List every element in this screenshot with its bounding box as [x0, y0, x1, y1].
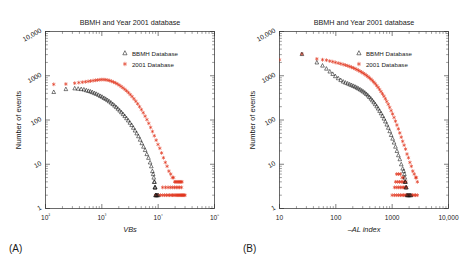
- marker-asterisk: [394, 180, 397, 184]
- x-tick-label: 10⁵: [210, 213, 219, 221]
- marker-asterisk: [408, 161, 411, 165]
- marker-triangle: [394, 145, 398, 149]
- marker-asterisk: [162, 156, 165, 160]
- marker-asterisk: [396, 180, 399, 184]
- marker-asterisk: [321, 58, 324, 62]
- marker-triangle: [392, 141, 396, 145]
- marker-asterisk: [134, 99, 137, 103]
- marker-asterisk: [397, 127, 400, 131]
- marker-asterisk: [171, 185, 174, 189]
- marker-asterisk: [180, 185, 183, 189]
- marker-asterisk: [136, 102, 139, 106]
- x-tick-label: 10⁴: [154, 213, 163, 221]
- legend-label: BBMH Database: [132, 50, 179, 57]
- marker-triangle: [397, 153, 401, 157]
- marker-triangle: [52, 90, 56, 94]
- marker-asterisk: [156, 143, 159, 147]
- marker-triangle: [328, 69, 332, 73]
- marker-triangle: [64, 87, 68, 91]
- marker-asterisk: [394, 119, 397, 123]
- data-layer: [278, 52, 419, 197]
- marker-triangle: [325, 67, 329, 71]
- y-axis-label: Number of events: [14, 91, 23, 150]
- marker-asterisk: [149, 126, 152, 130]
- marker-asterisk: [328, 59, 331, 63]
- marker-asterisk: [416, 180, 419, 184]
- panel-letter: (B): [243, 243, 256, 254]
- marker-asterisk: [164, 185, 167, 189]
- marker-triangle: [148, 160, 152, 164]
- marker-asterisk: [77, 81, 80, 85]
- marker-asterisk: [391, 193, 394, 197]
- marker-asterisk: [325, 58, 328, 62]
- y-tick-label: 100: [263, 115, 276, 127]
- y-tick-label: 10: [33, 159, 43, 169]
- marker-asterisk: [158, 146, 161, 150]
- marker-asterisk: [160, 151, 163, 155]
- marker-asterisk: [407, 156, 410, 160]
- marker-asterisk: [393, 185, 396, 189]
- marker-asterisk: [140, 108, 143, 112]
- marker-triangle: [147, 156, 151, 160]
- y-tick-label: 1000: [26, 71, 43, 84]
- marker-asterisk: [395, 185, 398, 189]
- marker-asterisk: [410, 164, 413, 168]
- marker-triangle: [388, 129, 392, 133]
- series-bbmh: [52, 86, 160, 196]
- marker-asterisk: [155, 138, 158, 142]
- marker-asterisk: [165, 164, 168, 168]
- y-tick-label: 10,000: [255, 27, 276, 43]
- marker-asterisk: [151, 130, 154, 134]
- marker-triangle: [140, 141, 144, 145]
- panel-b: BBMH and Year 2001 database110100100010,…: [248, 18, 459, 234]
- marker-asterisk: [395, 172, 398, 176]
- legend: BBMH Database2001 Database: [123, 50, 179, 68]
- x-axis-label: VBs: [123, 225, 137, 234]
- panel-title: BBMH and Year 2001 database: [314, 18, 415, 27]
- marker-asterisk: [398, 131, 401, 135]
- x-tick-label: 10: [276, 214, 284, 221]
- x-tick-label: 100: [330, 214, 341, 221]
- marker-triangle: [321, 64, 325, 68]
- marker-asterisk: [395, 123, 398, 127]
- marker-asterisk: [402, 143, 405, 147]
- marker-asterisk: [278, 58, 281, 62]
- marker-asterisk: [397, 172, 400, 176]
- series-2001: [52, 78, 187, 197]
- marker-asterisk: [416, 193, 419, 197]
- plot-frame: [46, 32, 215, 209]
- marker-asterisk: [132, 97, 135, 101]
- x-tick-label: 10³: [97, 213, 106, 221]
- series-2001: [278, 52, 419, 197]
- panel-letter: (A): [9, 243, 22, 254]
- data-layer: [52, 78, 187, 197]
- marker-triangle: [145, 152, 149, 156]
- marker-asterisk: [73, 81, 76, 85]
- x-tick-label: 10,000: [438, 214, 459, 221]
- marker-asterisk: [169, 172, 172, 176]
- marker-asterisk: [397, 185, 400, 189]
- y-tick-label: 1: [36, 204, 43, 212]
- marker-triangle: [398, 157, 402, 161]
- y-tick-label: 100: [29, 115, 42, 127]
- legend-label: 2001 Database: [132, 61, 175, 68]
- marker-asterisk: [145, 118, 148, 122]
- marker-triangle: [395, 149, 399, 153]
- marker-asterisk: [163, 193, 166, 197]
- marker-triangle: [315, 60, 319, 64]
- figure-root: BBMH and Year 2001 database110100100010,…: [0, 0, 468, 260]
- marker-asterisk: [391, 112, 394, 116]
- marker-triangle: [73, 86, 77, 90]
- marker-asterisk: [142, 111, 145, 115]
- marker-triangle: [357, 51, 361, 55]
- marker-triangle: [123, 51, 127, 55]
- x-tick-label: 1000: [385, 214, 400, 221]
- marker-asterisk: [64, 82, 67, 86]
- x-axis-label: –AL index: [347, 225, 381, 234]
- marker-asterisk: [52, 82, 55, 86]
- y-tick-label: 10: [267, 159, 277, 169]
- marker-triangle: [149, 164, 153, 168]
- marker-asterisk: [161, 193, 164, 197]
- marker-triangle: [138, 138, 142, 142]
- marker-asterisk: [147, 121, 150, 125]
